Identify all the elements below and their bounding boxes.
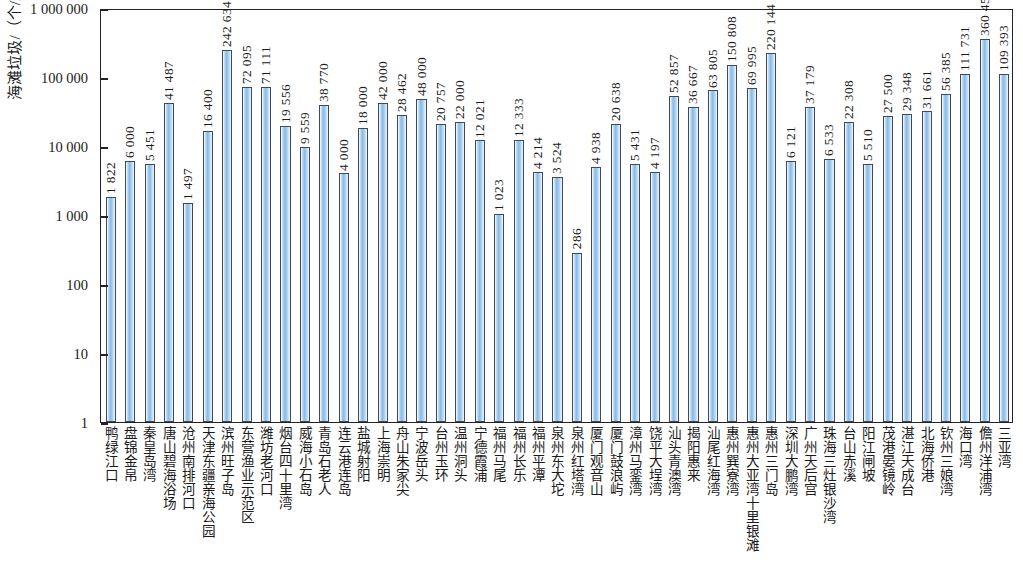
x-tick-label: 温州洞头 [452, 426, 466, 482]
bar-value-label: 69 995 [745, 46, 758, 85]
bar-value-label: 19 556 [279, 84, 292, 123]
bar [436, 124, 446, 422]
x-tick-label: 烟台四十里湾 [278, 426, 292, 510]
bar-slot: 41 487 [164, 10, 174, 422]
bar [650, 172, 660, 422]
x-tick-label: 福州长乐 [511, 426, 525, 482]
x-tick-label: 东营渔业示范区 [239, 426, 253, 524]
bar-slot: 36 667 [688, 10, 698, 422]
bar [145, 164, 155, 422]
bar-value-label: 36 667 [687, 65, 700, 104]
x-tick-label: 茂港晏镜岭 [880, 426, 894, 496]
bar-value-label: 150 808 [726, 16, 739, 62]
bar-slot: 27 500 [883, 10, 893, 422]
bar [999, 74, 1009, 422]
bar-value-label: 360 453 [978, 0, 991, 36]
bar-slot: 37 179 [805, 10, 815, 422]
x-tick-label: 厦门鼓浪屿 [608, 426, 622, 496]
x-tick-label: 广州天后宫 [802, 426, 816, 496]
bar [688, 107, 698, 422]
bar-value-label: 111 731 [959, 26, 972, 71]
bar-value-label: 6 533 [823, 124, 836, 156]
bar [106, 197, 116, 422]
y-tick-mark [101, 354, 108, 356]
bar [203, 131, 213, 422]
bar [125, 161, 135, 422]
y-tick-label: 1 [81, 416, 88, 431]
x-tick-label: 青岛石老人 [316, 426, 330, 496]
bar-slot: 5 451 [145, 10, 155, 422]
x-axis-tick-labels: 鸭绿江口盘锦金帛秦皇岛湾唐山碧海浴场沧州南排河口天津东疆亲海公园滨州旺子岛东营渔… [100, 426, 1013, 576]
plot-area: 1 8226 0005 45141 4871 49716 400242 6347… [100, 9, 1013, 423]
x-tick-label: 三亚湾 [996, 426, 1010, 468]
y-tick-label: 1 000 000 [30, 2, 88, 17]
x-tick-label: 舟山朱家尖 [394, 426, 408, 496]
bar [397, 115, 407, 422]
bar-slot: 4 214 [533, 10, 543, 422]
bar-slot: 6 533 [824, 10, 834, 422]
bar [475, 140, 485, 422]
y-tick-label: 100 000 [41, 71, 88, 86]
bar-slot: 1 023 [494, 10, 504, 422]
bar [339, 173, 349, 422]
bar [844, 122, 854, 422]
bar [883, 116, 893, 422]
bar-slot: 18 000 [358, 10, 368, 422]
bar-slot: 69 995 [747, 10, 757, 422]
bar [514, 140, 524, 422]
bar [280, 126, 290, 422]
x-tick-label: 宁德霞浦 [472, 426, 486, 482]
y-axis-tick-labels: 1101001 00010 000100 0001 000 000 [20, 0, 96, 578]
bar [747, 88, 757, 422]
bar-slot: 4 938 [591, 10, 601, 422]
bar [669, 96, 679, 422]
y-tick-mark [101, 216, 108, 218]
bar-value-label: 22 000 [454, 80, 467, 119]
bar [902, 114, 912, 422]
y-tick-mark [101, 423, 108, 425]
bar [611, 124, 621, 422]
x-tick-label: 泉州红塔湾 [569, 426, 583, 496]
x-tick-label: 汕尾红海湾 [705, 426, 719, 496]
bar-value-label: 5 431 [629, 129, 642, 161]
bar-value-label: 29 348 [900, 72, 913, 111]
bar-value-label: 16 400 [201, 89, 214, 128]
bar [261, 87, 271, 422]
bar-value-label: 71 111 [259, 46, 272, 84]
x-tick-label: 惠州大亚湾十里银滩 [744, 426, 758, 552]
bar-slot: 52 857 [669, 10, 679, 422]
bar [494, 214, 504, 422]
bar-slot: 29 348 [902, 10, 912, 422]
y-tick-label: 100 [66, 278, 88, 293]
x-tick-label: 汕头青澳湾 [666, 426, 680, 496]
bar-value-label: 31 661 [920, 70, 933, 109]
bar-value-label: 28 462 [395, 73, 408, 112]
x-tick-label: 海口湾 [957, 426, 971, 468]
bar-value-label: 1 822 [104, 162, 117, 194]
bar [222, 50, 232, 422]
bar-slot: 6 121 [786, 10, 796, 422]
bar [960, 74, 970, 422]
x-tick-label: 宁波岳头 [414, 426, 428, 482]
bar [805, 107, 815, 422]
x-tick-label: 惠州三门岛 [763, 426, 777, 496]
bars-layer: 1 8226 0005 45141 4871 49716 400242 6347… [101, 10, 1012, 422]
bar-slot: 150 808 [727, 10, 737, 422]
x-tick-label: 漳州马銮湾 [627, 426, 641, 496]
bar [242, 87, 252, 422]
bar-value-label: 56 385 [939, 52, 952, 91]
bar-value-label: 9 559 [298, 112, 311, 144]
x-tick-label: 沧州南排河口 [180, 426, 194, 510]
bar-value-label: 41 487 [162, 61, 175, 100]
bar-slot: 28 462 [397, 10, 407, 422]
bar-slot: 109 393 [999, 10, 1009, 422]
y-tick-label: 10 [74, 347, 89, 362]
bar-value-label: 12 021 [473, 99, 486, 138]
x-tick-label: 揭阳惠来 [686, 426, 700, 482]
x-tick-label: 唐山碧海浴场 [161, 426, 175, 510]
x-tick-label: 潍坊老河口 [258, 426, 272, 496]
bar-value-label: 109 393 [998, 25, 1011, 71]
bar-value-label: 22 308 [842, 80, 855, 119]
x-tick-label: 福州马尾 [491, 426, 505, 482]
bar-value-label: 1 023 [493, 179, 506, 211]
